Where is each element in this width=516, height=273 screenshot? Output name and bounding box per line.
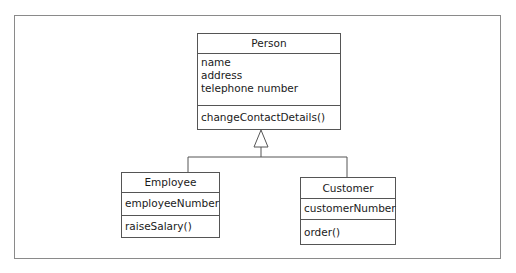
attribute: customerNumber (304, 202, 392, 215)
operations-compartment: changeContactDetails() (198, 105, 340, 129)
attributes-compartment: name address telephone number (198, 53, 340, 105)
class-customer[interactable]: Customer customerNumber order() (300, 177, 396, 245)
class-person[interactable]: Person name address telephone number cha… (197, 33, 341, 130)
attributes-compartment: employeeNumber (122, 192, 219, 215)
class-name: Employee (122, 173, 219, 192)
class-name-label: Employee (144, 176, 196, 188)
attribute: telephone number (201, 82, 337, 95)
class-employee[interactable]: Employee employeeNumber raiseSalary() (121, 172, 220, 238)
operations-compartment: raiseSalary() (122, 215, 219, 237)
operations-compartment: order() (301, 219, 395, 244)
generalization-arrowhead-icon (254, 130, 268, 147)
operation: changeContactDetails() (201, 111, 337, 124)
attribute: address (201, 69, 337, 82)
attributes-compartment: customerNumber (301, 198, 395, 219)
class-name: Person (198, 34, 340, 53)
class-name-label: Person (251, 37, 286, 49)
attribute: employeeNumber (125, 197, 216, 210)
operation: order() (304, 226, 392, 239)
attribute: name (201, 56, 337, 69)
class-name-label: Customer (322, 182, 373, 194)
class-name: Customer (301, 178, 395, 198)
operation: raiseSalary() (125, 220, 216, 233)
